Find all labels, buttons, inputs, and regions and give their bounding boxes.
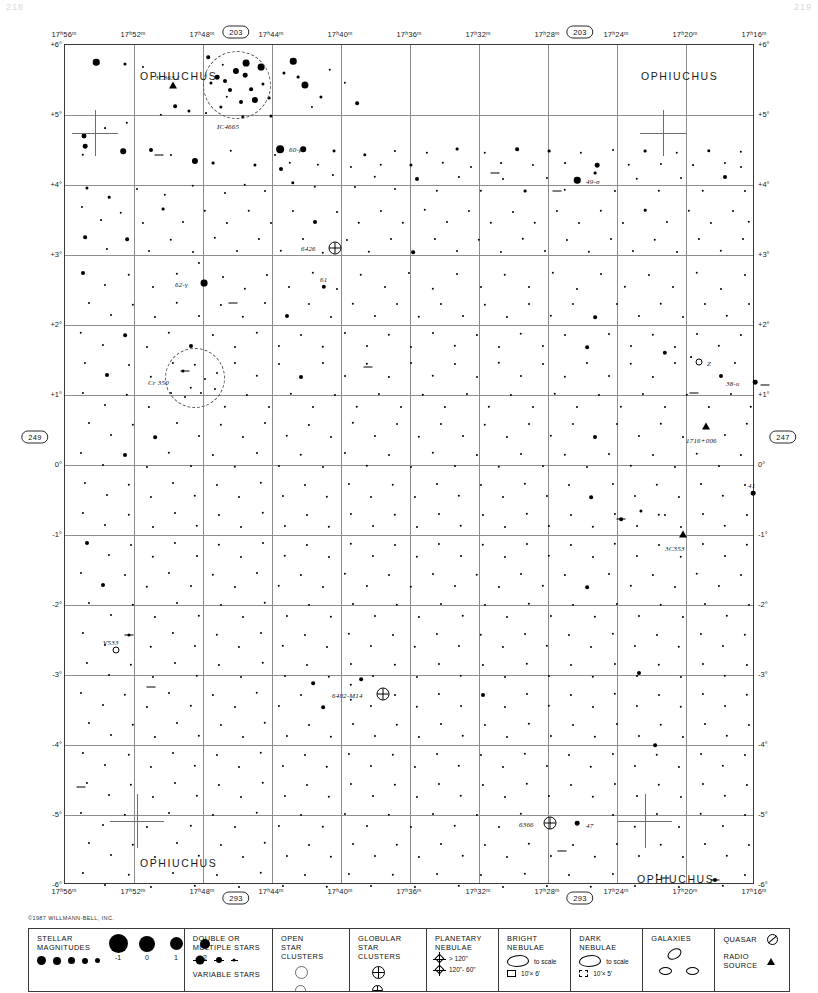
star	[680, 796, 682, 798]
star	[212, 454, 214, 456]
adjacent-chart-bottom-left[interactable]: 293	[222, 892, 249, 905]
star	[152, 676, 154, 678]
star	[297, 76, 300, 79]
star	[168, 332, 170, 334]
star	[748, 303, 750, 305]
star	[350, 543, 352, 545]
star	[264, 602, 266, 604]
star	[434, 238, 436, 240]
star	[700, 753, 702, 755]
star	[411, 250, 415, 254]
star	[290, 58, 297, 65]
star	[482, 514, 484, 516]
star	[416, 676, 418, 678]
star	[648, 274, 650, 276]
star	[279, 167, 283, 171]
adjacent-chart-left[interactable]: 249	[21, 431, 48, 444]
star	[366, 465, 368, 467]
star	[234, 362, 236, 364]
star	[614, 663, 616, 665]
star	[480, 754, 482, 756]
star	[123, 453, 127, 457]
ra-tick-bottom: 17ʰ52ᵐ	[120, 887, 145, 896]
star	[564, 162, 566, 164]
double-star-bar	[761, 385, 770, 386]
star	[370, 885, 372, 887]
star	[484, 844, 486, 846]
star	[502, 178, 504, 180]
star	[742, 238, 744, 240]
magnitude-dot	[139, 936, 155, 952]
star	[332, 174, 334, 176]
ra-tick-top: 17ʰ52ᵐ	[120, 30, 145, 39]
star	[436, 633, 438, 635]
sky-chart[interactable]: 3C363.1IC466560-β49-σ642662-γ61Cr 350Z38…	[64, 44, 754, 884]
star	[722, 885, 724, 887]
star	[720, 250, 722, 252]
star	[83, 235, 87, 239]
double-star-bar	[77, 787, 86, 788]
star	[476, 376, 478, 378]
star	[638, 435, 640, 437]
star	[454, 825, 456, 827]
star	[394, 544, 396, 546]
star	[614, 693, 616, 695]
star	[532, 406, 534, 408]
star	[82, 392, 84, 394]
adjacent-chart-top-right[interactable]: 203	[566, 26, 593, 39]
star	[350, 663, 352, 665]
star	[105, 373, 109, 377]
star	[308, 844, 310, 846]
star	[524, 483, 526, 485]
adjacent-chart-bottom-right[interactable]: 293	[566, 892, 593, 905]
star	[506, 316, 508, 318]
star	[746, 544, 748, 546]
star	[196, 555, 198, 557]
star	[372, 555, 374, 557]
star	[468, 210, 470, 212]
star	[238, 496, 240, 498]
adjacent-chart-right[interactable]: 247	[769, 431, 796, 444]
star	[88, 302, 90, 304]
star	[198, 435, 200, 437]
adjacent-chart-top-left[interactable]: 203	[222, 26, 249, 39]
star	[724, 795, 726, 797]
star	[680, 177, 682, 179]
star	[242, 436, 244, 438]
star	[146, 586, 148, 588]
star	[748, 221, 750, 223]
object-label-6426: 6426	[301, 245, 316, 253]
star	[88, 602, 90, 604]
legend-size-label: 10'× 6'	[521, 970, 540, 977]
dec-tick-left: +3°	[40, 250, 62, 259]
star	[344, 82, 346, 84]
star	[106, 248, 108, 250]
globular-cluster-icon	[372, 966, 385, 979]
star	[216, 754, 218, 756]
star	[588, 251, 590, 253]
star	[216, 874, 218, 876]
star	[270, 222, 272, 224]
star	[306, 544, 308, 546]
double-star-bar	[558, 851, 567, 852]
star	[350, 513, 352, 515]
star	[674, 586, 676, 588]
star	[702, 693, 704, 695]
star	[374, 855, 376, 857]
star	[580, 152, 582, 154]
star	[724, 434, 726, 436]
star	[344, 573, 346, 575]
star	[444, 406, 446, 408]
star	[218, 514, 220, 516]
star	[220, 724, 222, 726]
constellation-name: OPHIUCHUS	[140, 857, 217, 869]
star	[80, 452, 82, 454]
magnitude-dot	[170, 937, 183, 950]
star	[608, 453, 610, 455]
star	[394, 694, 396, 696]
ra-tick-bottom: 17ʰ24ᵐ	[603, 887, 628, 896]
star	[418, 436, 420, 438]
star	[746, 514, 748, 516]
star	[120, 148, 126, 154]
star	[568, 754, 570, 756]
